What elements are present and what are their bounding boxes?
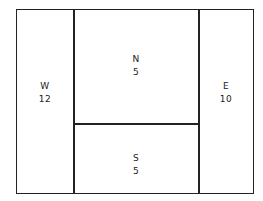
region-west-name: W [25,80,65,93]
region-east-name: E [206,80,246,93]
region-east: E 10 [206,80,246,106]
region-south: S 5 [116,152,156,178]
divider-east [198,9,200,194]
region-south-name: S [116,152,156,165]
divider-west [73,9,75,194]
region-north: N 5 [116,53,156,79]
region-east-value: 10 [206,93,246,106]
region-north-name: N [116,53,156,66]
region-west-value: 12 [25,93,65,106]
region-west: W 12 [25,80,65,106]
region-north-value: 5 [116,66,156,79]
region-south-value: 5 [116,165,156,178]
divider-north-south [73,123,199,125]
